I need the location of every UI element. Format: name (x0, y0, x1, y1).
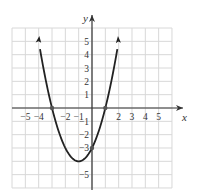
svg-text:3: 3 (84, 64, 89, 74)
svg-text:−5: −5 (20, 112, 30, 122)
svg-text:−4: −4 (34, 112, 44, 122)
x-axis-label: x (181, 111, 187, 123)
svg-text:−1: −1 (79, 117, 89, 127)
svg-text:5: 5 (84, 37, 89, 47)
svg-text:−5: −5 (79, 170, 89, 180)
svg-text:5: 5 (156, 112, 161, 122)
svg-text:4: 4 (143, 112, 148, 122)
svg-text:−2: −2 (60, 112, 70, 122)
svg-text:3: 3 (130, 112, 135, 122)
svg-text:−2: −2 (79, 130, 89, 140)
svg-text:1: 1 (84, 90, 89, 100)
svg-text:2: 2 (116, 112, 121, 122)
y-axis-label: y (82, 12, 88, 24)
svg-text:2: 2 (84, 77, 89, 87)
svg-text:4: 4 (84, 50, 89, 60)
svg-text:−3: −3 (79, 143, 89, 153)
parabola-graph: −5−4−2−1234554321−1−2−3−5 x y (0, 0, 201, 195)
